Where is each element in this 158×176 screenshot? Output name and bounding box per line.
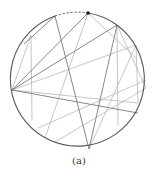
- chord-line-dark: [55, 16, 89, 149]
- figure-caption: (a): [0, 155, 158, 166]
- chord-line-light: [136, 45, 138, 103]
- marker-point: [87, 12, 90, 15]
- chord-line-light: [117, 25, 118, 126]
- chord-line-light: [12, 35, 31, 90]
- chord-line-dark: [89, 25, 117, 149]
- dashed-arc: [55, 12, 88, 16]
- chord-line-dark: [24, 16, 55, 44]
- chord-line-light: [89, 45, 136, 149]
- chord-line-dark: [12, 13, 88, 90]
- chord-diagram: [0, 0, 158, 176]
- chord-line-light: [117, 25, 146, 88]
- circle-outline: [10, 13, 144, 146]
